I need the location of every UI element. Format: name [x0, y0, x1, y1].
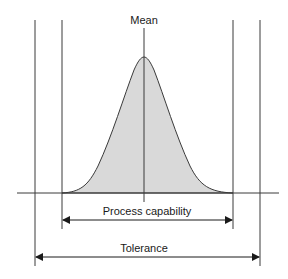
process-capability-label: Process capability	[103, 205, 192, 217]
distribution-curve	[62, 57, 233, 193]
process-capability-diagram: Mean Process capability Tolerance	[0, 0, 288, 279]
mean-label: Mean	[130, 14, 158, 26]
tolerance-label: Tolerance	[120, 242, 168, 254]
